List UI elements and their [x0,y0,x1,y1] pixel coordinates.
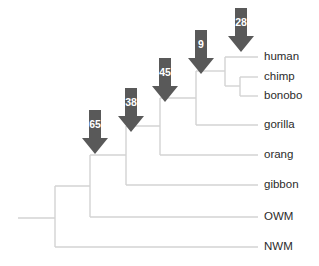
tip-label-nwm: NWM [264,241,293,253]
tip-label-owm: OWM [264,211,293,223]
phylogenetic-tree-figure: human chimp bonobo gorilla orang gibbon … [0,0,319,266]
annotation-arrow-45: 45 [152,58,178,102]
tip-label-chimp: chimp [264,71,295,83]
tip-label-orang: orang [264,149,293,161]
down-arrow-icon [82,110,108,154]
tip-label-bonobo: bonobo [264,90,302,102]
annotation-arrow-28: 28 [228,8,254,52]
down-arrow-icon [118,88,144,132]
branch-lines [18,57,258,247]
down-arrow-icon [152,58,178,102]
tip-label-gorilla: gorilla [264,119,295,131]
annotation-arrow-65: 65 [82,110,108,154]
down-arrow-icon [188,30,214,74]
tip-label-gibbon: gibbon [264,179,299,191]
tip-label-human: human [264,51,299,63]
down-arrow-icon [228,8,254,52]
annotation-arrow-38: 38 [118,88,144,132]
annotation-arrow-9: 9 [188,30,214,74]
tree-branches [0,0,319,266]
